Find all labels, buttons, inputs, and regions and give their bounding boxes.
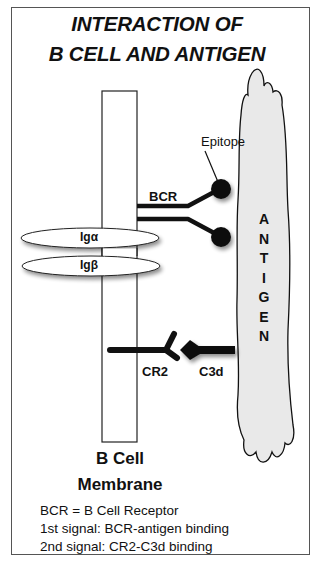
epitope-dot-lower — [211, 227, 231, 247]
epitope-pointer — [205, 151, 218, 182]
antigen-letter: A — [256, 210, 272, 230]
epitope-dot-upper — [211, 179, 231, 199]
membrane-label-line-2: Membrane — [0, 475, 240, 495]
ig-alpha-label: Igα — [80, 230, 98, 244]
c3d-label: C3d — [199, 364, 224, 379]
antigen-letter: G — [256, 288, 272, 308]
membrane-label-line-1: B Cell — [0, 449, 240, 469]
ig-beta-label: Igβ — [80, 258, 98, 272]
bcr-label: BCR — [149, 189, 177, 204]
antigen-letter: E — [256, 308, 272, 328]
antigen-label: A N T I G E N — [256, 210, 272, 347]
antigen-letter: I — [256, 269, 272, 289]
legend-line-2: 1st signal: BCR-antigen binding — [40, 521, 229, 536]
c3d-ligand — [180, 340, 235, 360]
antigen-letter: T — [256, 249, 272, 269]
antigen-letter: N — [256, 230, 272, 250]
cr2-label: CR2 — [142, 364, 168, 379]
antigen-letter: N — [256, 327, 272, 347]
epitope-label: Epitope — [201, 134, 245, 149]
legend-line-3: 2nd signal: CR2-C3d binding — [40, 539, 213, 554]
legend-line-1: BCR = B Cell Receptor — [40, 503, 178, 518]
